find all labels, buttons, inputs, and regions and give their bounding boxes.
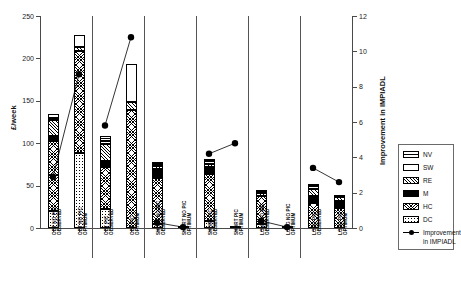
- y-tick-left: [36, 58, 40, 59]
- improvement-marker: [232, 140, 238, 146]
- y-tick-right: [353, 51, 357, 52]
- y-tick-left: [36, 228, 40, 229]
- x-label-line2: OPTIMUM: [239, 213, 244, 235]
- x-label-line1: OBT PIC: [104, 216, 109, 235]
- improvement-marker: [206, 151, 212, 157]
- bar-segment-RE: [334, 197, 345, 200]
- bar-segment-M: [334, 201, 345, 208]
- improvement-marker: [310, 165, 316, 171]
- legend: NVSWREMHCDCImprovementin IMPIADL: [398, 144, 454, 250]
- y-tick-label-right: 6: [359, 119, 363, 126]
- bar-segment-RE: [74, 47, 85, 51]
- bar-segment-RE: [48, 120, 59, 135]
- legend-label: HC: [423, 203, 432, 211]
- bar-segment-HC: [126, 110, 137, 228]
- x-label-line2: OBSERVED: [57, 209, 62, 236]
- bar-segment-RE: [256, 193, 267, 196]
- legend-swatch-RE: [403, 177, 419, 184]
- x-label-line1: OBT PIC: [130, 216, 135, 235]
- y-tick-label-left: 200: [8, 55, 34, 62]
- group-separator: [144, 16, 145, 258]
- improvement-marker: [336, 179, 342, 185]
- y-tick-label-right: 8: [359, 83, 363, 90]
- bar-segment-NV: [152, 162, 163, 164]
- legend-marker-icon: [403, 229, 419, 236]
- y-tick-left: [36, 143, 40, 144]
- x-label-line2: OPTIMUM: [343, 213, 348, 235]
- legend-item-DC: DC: [403, 213, 449, 226]
- y-tick-left: [36, 186, 40, 187]
- bar-segment-NV: [48, 114, 59, 117]
- bar-segment-RE: [100, 144, 111, 161]
- bar-segment-SW: [334, 195, 345, 197]
- y-tick-label-right: 0: [359, 225, 363, 232]
- legend-item-RE: RE: [403, 174, 449, 187]
- bar-segment-M: [204, 167, 215, 174]
- legend-item-HC: HC: [403, 200, 449, 213]
- x-label-line2: OBSERVED: [109, 209, 114, 236]
- y-tick-label-left: 50: [8, 182, 34, 189]
- legend-item-NV: NV: [403, 148, 449, 161]
- x-label-line2: OPTIMUM: [187, 213, 192, 235]
- y-axis-left: [40, 16, 41, 229]
- y-tick-label-left: 250: [8, 13, 34, 20]
- improvement-marker: [128, 34, 134, 40]
- x-label-line2: OPTIMUM: [83, 213, 88, 235]
- bar-segment-HC: [100, 167, 111, 209]
- x-label-line1: LONG NO PIC: [260, 204, 265, 235]
- bar-segment-M: [100, 161, 111, 167]
- legend-label: M: [423, 190, 428, 198]
- x-label-line1: OBT NO PIC: [78, 207, 83, 235]
- y-tick-right: [353, 193, 357, 194]
- bar-segment-SW: [126, 64, 137, 102]
- bar-segment-SW: [100, 141, 111, 144]
- bar-segment-SW: [74, 35, 85, 47]
- legend-label-improvement: Improvement: [423, 229, 461, 237]
- bar-segment-M: [308, 196, 319, 204]
- bar-segment-HC: [48, 141, 59, 211]
- x-label-line1: LONG NO PIC: [286, 204, 291, 235]
- legend-swatch-M: [403, 190, 419, 197]
- y-axis-right-title: Improvement in IMPIADL: [378, 76, 387, 165]
- bar-segment-NV: [204, 159, 215, 161]
- bar-segment-SW: [308, 186, 319, 189]
- bar-obt-pic-optimum[interactable]: [126, 63, 137, 228]
- bar-segment-RE: [204, 164, 215, 167]
- bar-segment-RE: [152, 166, 163, 169]
- legend-label: RE: [423, 177, 432, 185]
- y-tick-label-right: 2: [359, 189, 363, 196]
- y-tick-right: [353, 87, 357, 88]
- bar-segment-NV: [256, 190, 267, 192]
- x-label-line2: OBSERVED: [213, 209, 218, 236]
- bar-segment-RE: [308, 189, 319, 196]
- x-label-line2: OPTIMUM: [291, 213, 296, 235]
- legend-swatch-HC: [403, 203, 419, 210]
- x-label-line1: SHORT NO PIC: [156, 201, 161, 235]
- y-tick-label-right: 12: [359, 13, 367, 20]
- y-tick-right: [353, 122, 357, 123]
- bar-segment-SW: [152, 164, 163, 167]
- y-axis-left-title: £/week: [9, 105, 18, 130]
- legend-label-improvement-2: in IMPIADL: [403, 238, 449, 246]
- x-label-line2: OBSERVED: [265, 209, 270, 236]
- y-tick-right: [353, 16, 357, 17]
- legend-swatch-NV: [403, 151, 419, 158]
- y-tick-left: [36, 16, 40, 17]
- group-separator: [248, 16, 249, 258]
- bar-segment-M: [152, 169, 163, 178]
- bar-obt-no-pic-optimum[interactable]: [74, 35, 85, 228]
- y-tick-left: [36, 101, 40, 102]
- y-tick-right: [353, 157, 357, 158]
- bar-segment-RE: [126, 102, 137, 110]
- x-label-line1: SHORT NO PIC: [182, 201, 187, 235]
- legend-swatch-SW: [403, 164, 419, 171]
- x-label-line2: OBSERVED: [317, 209, 322, 236]
- group-separator: [92, 16, 93, 258]
- group-separator: [300, 16, 301, 258]
- bar-segment-SW: [256, 191, 267, 193]
- bar-segment-M: [48, 136, 59, 141]
- legend-label: NV: [423, 151, 432, 159]
- legend-label: SW: [423, 164, 433, 172]
- x-label-line1: OBT NO PIC: [52, 207, 57, 235]
